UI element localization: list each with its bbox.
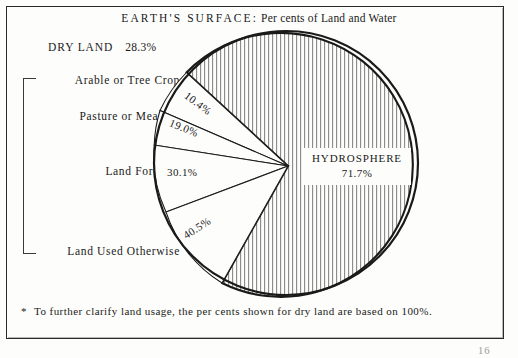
slice-percent-land-forested: 30.1%	[167, 166, 197, 178]
footnote: * To further clarify land usage, the per…	[21, 303, 441, 320]
hydrosphere-name: HYDROSPHERE	[305, 151, 409, 166]
hydrosphere-percent: 71.7%	[305, 166, 409, 181]
page-number: 16	[478, 345, 491, 356]
hydrosphere-callout: HYDROSPHERE 71.7%	[303, 148, 411, 185]
footnote-text: To further clarify land usage, the per c…	[34, 303, 441, 320]
footnote-marker: *	[21, 303, 27, 320]
figure-page: EARTH'S SURFACE: Per cents of Land and W…	[0, 0, 518, 358]
